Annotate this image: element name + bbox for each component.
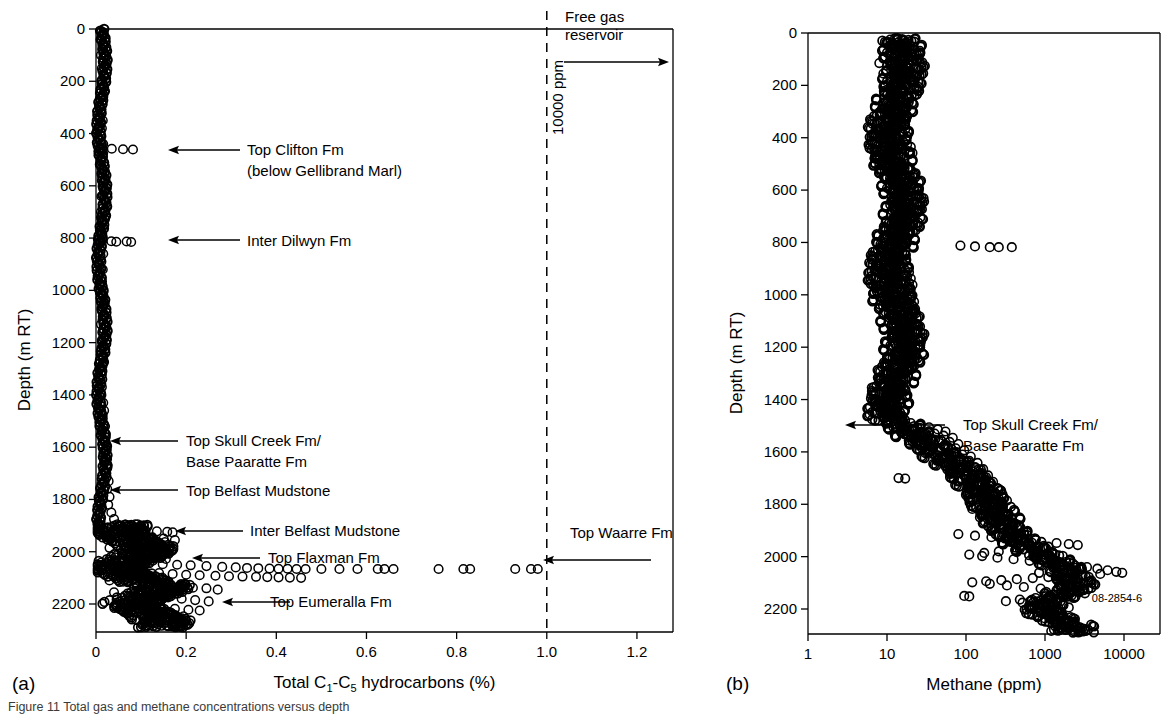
panel-b-xtick-label: 100: [953, 645, 978, 662]
panel-a-ytick-label: 800: [60, 229, 85, 246]
panel-b-ytick-label: 200: [772, 76, 797, 93]
data-point: [994, 243, 1003, 252]
panel-b-code-label: 08-2854-6: [1092, 592, 1142, 604]
data-point: [213, 585, 222, 594]
panel-a-ytick-label: 400: [60, 125, 85, 142]
figure-caption: Figure 11 Total gas and methane concentr…: [8, 700, 1168, 718]
data-point: [107, 144, 116, 153]
data-point: [238, 572, 247, 581]
data-point: [202, 584, 211, 593]
data-point: [968, 578, 977, 587]
panel-b-ytick-label: 1200: [764, 338, 797, 355]
panel-b-xtick-label: 10000: [1103, 645, 1145, 662]
data-point: [173, 560, 182, 569]
data-point: [971, 531, 980, 540]
panel-b-ytick-label: 600: [772, 181, 797, 198]
panel-b-ytick-label: 800: [772, 233, 797, 250]
data-point: [434, 565, 443, 574]
data-point: [1064, 540, 1073, 549]
panel-b-xtick-label: 1: [804, 645, 812, 662]
free-gas-label-line2: reservoir: [565, 26, 623, 43]
data-point: [956, 241, 965, 250]
data-point: [985, 243, 994, 252]
data-point: [1002, 597, 1011, 606]
panel-b-label: (b): [726, 673, 749, 694]
annotation-label-skull-creek-b: Top Skull Creek Fm/: [963, 416, 1099, 433]
data-point: [195, 571, 204, 580]
data-point: [119, 145, 128, 154]
panel-a-xtick-label: 0.2: [176, 643, 197, 660]
data-point: [202, 562, 211, 571]
panel-b-ytick-label: 1400: [764, 391, 797, 408]
panel-b-xtick-label: 1000: [1028, 645, 1061, 662]
panel-a-ytick-label: 1400: [52, 386, 85, 403]
annotation-label-clifton-line2: (below Gellibrand Marl): [247, 162, 402, 179]
panel-b-xlabel: Methane (ppm): [926, 675, 1041, 694]
data-point: [954, 530, 963, 539]
panel-b-ytick-label: 2000: [764, 548, 797, 565]
panel-a-points-group: [92, 25, 542, 632]
panel-a-xtick-label: 1.2: [627, 643, 648, 660]
data-point: [129, 145, 138, 154]
annotation-label-waarre: Top Waarre Fm: [570, 524, 673, 541]
data-point: [225, 572, 234, 581]
panel-b-points-group: [863, 34, 1127, 637]
panel-a-label: (a): [12, 673, 35, 694]
panel-a-xtick-label: 0: [92, 643, 100, 660]
panel-a-ytick-label: 0: [77, 20, 85, 37]
panel-b-ylabel: Depth (m RT): [727, 312, 746, 415]
data-point: [971, 242, 980, 251]
free-gas-label-line1: Free gas: [565, 8, 624, 25]
annotation-label-inter-belfast: Inter Belfast Mudstone: [250, 522, 400, 539]
panel-b-ytick-label: 0: [789, 24, 797, 41]
panel-a-ytick-label: 600: [60, 177, 85, 194]
data-point: [965, 550, 974, 559]
data-point: [1052, 539, 1061, 548]
data-point: [263, 573, 272, 582]
panel-a-ytick-label: 1200: [52, 334, 85, 351]
panel-b-ytick-label: 1800: [764, 495, 797, 512]
data-point: [195, 606, 204, 615]
panel-a-ylabel: Depth (m RT): [15, 309, 34, 412]
figure-root: 0200400600800100012001400160018002000220…: [0, 0, 1174, 718]
gas-depth-figure: 0200400600800100012001400160018002000220…: [0, 0, 1174, 700]
annotation-label-skull-creek: Top Skull Creek Fm/: [186, 432, 322, 449]
panel-a-xtick-label: 0.6: [356, 643, 377, 660]
threshold-label: 10000 ppm: [549, 60, 566, 135]
panel-a-xtick-label: 1.0: [536, 643, 557, 660]
panel-a-ytick-label: 1800: [52, 490, 85, 507]
data-point: [274, 573, 283, 582]
annotation-label-skull-creek-line2: Base Paaratte Fm: [186, 453, 307, 470]
data-point: [254, 564, 263, 573]
panel-a-ytick-label: 200: [60, 72, 85, 89]
annotation-label-dilwyn: Inter Dilwyn Fm: [247, 232, 351, 249]
panel-b-ytick-label: 400: [772, 129, 797, 146]
data-point: [252, 573, 261, 582]
annotation-label-clifton: Top Clifton Fm: [247, 141, 344, 158]
data-point: [186, 561, 195, 570]
panel-a-xlabel: Total C1-C5 hydrocarbons (%): [273, 673, 495, 694]
panel-a-ytick-label: 1000: [52, 281, 85, 298]
panel-b-ytick-label: 1600: [764, 443, 797, 460]
data-point: [297, 574, 306, 583]
panel-a-ytick-label: 1600: [52, 438, 85, 455]
data-point: [182, 570, 191, 579]
data-point: [1013, 575, 1022, 584]
data-point: [218, 563, 227, 572]
panel-a-ytick-label: 2200: [52, 595, 85, 612]
annotation-label-belfast: Top Belfast Mudstone: [186, 482, 330, 499]
data-point: [1073, 541, 1082, 550]
data-point: [1008, 243, 1017, 252]
panel-b-ytick-label: 1000: [764, 286, 797, 303]
data-point: [511, 565, 520, 574]
data-point: [1003, 581, 1012, 590]
data-point: [211, 571, 220, 580]
data-point: [997, 576, 1006, 585]
data-point: [243, 564, 252, 573]
data-point: [389, 565, 398, 574]
data-point: [191, 596, 200, 605]
annotation-label-skull-creek-b-line2: Base Paaratte Fm: [963, 437, 1084, 454]
data-point: [1118, 569, 1127, 578]
panel-b-xtick-label: 10: [879, 645, 896, 662]
annotation-label-eumeralla: Top Eumeralla Fm: [270, 593, 392, 610]
